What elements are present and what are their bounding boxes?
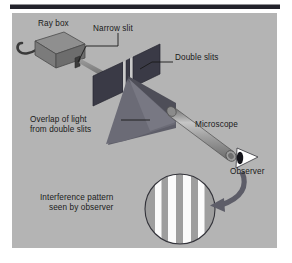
label-narrow-slit: Narrow slit (93, 24, 133, 33)
fringe-bright-3 (183, 174, 191, 244)
label-pattern-line2: seen by observer (49, 203, 114, 212)
diagram-root: Ray box Narrow slit Double slits Overlap… (0, 0, 292, 263)
label-overlap-line1: Overlap of light (30, 115, 87, 124)
fringe-bright-2 (168, 174, 176, 244)
label-pattern-line1: Interference pattern (40, 193, 114, 202)
label-observer: Observer (230, 167, 265, 176)
fringe-bright-4 (198, 174, 205, 244)
label-microscope: Microscope (195, 120, 238, 129)
observer-pupil (237, 152, 243, 164)
interference-pattern-circle (145, 174, 215, 244)
label-double-slits: Double slits (175, 53, 219, 62)
top-rule (10, 5, 280, 10)
narrow-slit-aperture (75, 56, 80, 68)
double-slit-diagram: Ray box Narrow slit Double slits Overlap… (0, 0, 292, 263)
label-ray-box: Ray box (38, 19, 69, 28)
fringe-bright-1 (155, 174, 162, 244)
label-overlap-line2: from double slits (30, 125, 91, 134)
